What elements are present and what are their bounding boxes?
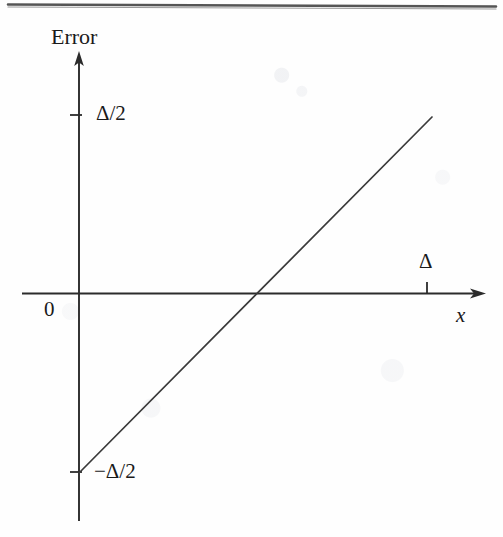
y-axis-title: Error — [51, 26, 97, 48]
x-tick-label-delta: Δ — [419, 251, 433, 272]
error-data-line — [79, 117, 432, 473]
y-tick-label-positive-half-delta: Δ/2 — [96, 103, 126, 124]
x-axis-title: x — [456, 305, 465, 326]
figure-page: Error Δ/2 −Δ/2 0 Δ x — [0, 0, 503, 537]
page-rule-icon — [8, 5, 496, 7]
origin-label: 0 — [44, 299, 55, 320]
y-tick-label-negative-half-delta: −Δ/2 — [94, 461, 136, 482]
